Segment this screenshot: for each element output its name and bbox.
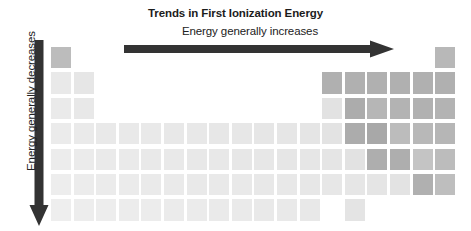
element-cell [277, 174, 297, 195]
element-cell [345, 149, 365, 170]
element-cell [74, 199, 94, 220]
element-cell [119, 123, 139, 144]
page-title: Trends in First Ionization Energy [0, 7, 471, 19]
horizontal-trend-label: Energy generally increases [40, 25, 460, 37]
element-cell [187, 199, 207, 220]
element-cell [74, 123, 94, 144]
element-cell [74, 98, 94, 119]
element-cell [435, 47, 455, 68]
periodic-table-grid [51, 47, 457, 225]
element-cell [300, 123, 320, 144]
element-cell [254, 149, 274, 170]
element-cell [96, 174, 116, 195]
element-cell [96, 199, 116, 220]
element-cell [413, 72, 433, 93]
element-cell [74, 149, 94, 170]
element-cell [232, 199, 252, 220]
element-cell [119, 174, 139, 195]
element-cell [435, 98, 455, 119]
element-cell [232, 174, 252, 195]
element-cell [322, 98, 342, 119]
element-cell [367, 72, 387, 93]
element-cell [413, 98, 433, 119]
element-cell [435, 174, 455, 195]
element-cell [232, 149, 252, 170]
element-cell [51, 149, 71, 170]
ionization-energy-trend-figure: Trends in First Ionization Energy Energy… [0, 0, 471, 231]
element-cell [164, 174, 184, 195]
element-cell [164, 123, 184, 144]
element-cell [232, 123, 252, 144]
element-cell [51, 123, 71, 144]
element-cell [413, 174, 433, 195]
element-cell [413, 123, 433, 144]
element-cell [187, 174, 207, 195]
element-cell [141, 199, 161, 220]
element-cell [322, 72, 342, 93]
element-cell [96, 149, 116, 170]
element-cell [300, 149, 320, 170]
element-cell [345, 72, 365, 93]
element-cell [254, 199, 274, 220]
element-cell [51, 98, 71, 119]
element-cell [51, 174, 71, 195]
element-cell [254, 174, 274, 195]
element-cell [51, 199, 71, 220]
element-cell [141, 174, 161, 195]
element-cell [390, 98, 410, 119]
element-cell [322, 174, 342, 195]
element-cell [209, 149, 229, 170]
element-cell [367, 149, 387, 170]
element-cell [141, 123, 161, 144]
element-cell [209, 174, 229, 195]
element-cell [119, 199, 139, 220]
element-cell [187, 149, 207, 170]
element-cell [390, 174, 410, 195]
element-cell [435, 72, 455, 93]
element-cell [119, 149, 139, 170]
element-cell [74, 72, 94, 93]
vertical-trend-label: Energy generally decreases [25, 6, 37, 196]
element-cell [300, 174, 320, 195]
element-cell [367, 174, 387, 195]
element-cell [367, 98, 387, 119]
element-cell [277, 123, 297, 144]
element-cell [51, 47, 71, 68]
element-cell [164, 199, 184, 220]
element-cell [74, 174, 94, 195]
element-cell [277, 199, 297, 220]
element-cell [254, 123, 274, 144]
element-cell [390, 123, 410, 144]
element-cell [390, 72, 410, 93]
element-cell [435, 149, 455, 170]
element-cell [141, 149, 161, 170]
element-cell [277, 149, 297, 170]
element-cell [435, 123, 455, 144]
element-cell [390, 149, 410, 170]
element-cell [367, 123, 387, 144]
element-cell [345, 174, 365, 195]
element-cell [345, 123, 365, 144]
element-cell [51, 72, 71, 93]
element-cell [413, 149, 433, 170]
element-cell [322, 149, 342, 170]
element-cell [209, 123, 229, 144]
element-cell [345, 98, 365, 119]
element-cell [322, 123, 342, 144]
element-cell [164, 149, 184, 170]
element-cell [345, 199, 365, 220]
element-cell [187, 123, 207, 144]
element-cell [209, 199, 229, 220]
element-cell [300, 199, 320, 220]
element-cell [96, 123, 116, 144]
